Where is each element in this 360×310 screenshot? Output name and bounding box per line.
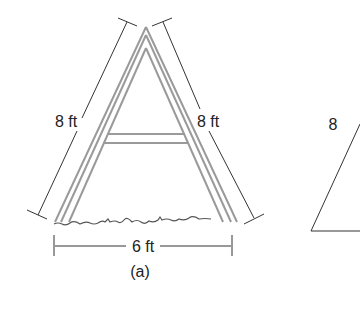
right-leg-label: 8 ft <box>197 113 220 130</box>
base-label: 6 ft <box>132 238 155 255</box>
crossbar <box>104 134 189 143</box>
ground-line <box>54 217 211 225</box>
right-leg <box>146 27 237 222</box>
panel-a-caption: (a) <box>130 263 150 280</box>
triangle-side-label: 8 <box>329 116 338 133</box>
left-leg-dimension <box>27 18 137 219</box>
left-leg-label: 8 ft <box>55 113 78 130</box>
figure-canvas: 8 ft 8 ft 6 ft (a) 8 <box>0 0 360 310</box>
triangle-diagram <box>311 124 360 231</box>
